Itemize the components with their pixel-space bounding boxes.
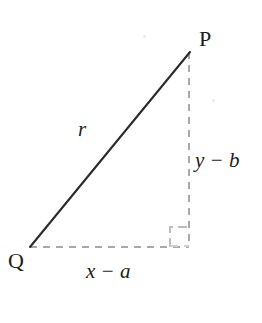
vertex-label-q: Q <box>8 250 24 272</box>
hypotenuse-label: r <box>78 119 86 140</box>
horizontal-leg-label: x − a <box>86 261 131 282</box>
right-angle-marker <box>170 227 189 247</box>
vertical-leg-label: y − b <box>195 150 240 171</box>
hypotenuse-line <box>30 52 190 247</box>
scan-speck <box>212 99 215 102</box>
scan-speck <box>143 35 146 38</box>
right-triangle-figure: P Q r y − b x − a <box>0 0 262 323</box>
vertex-label-p: P <box>199 28 211 50</box>
